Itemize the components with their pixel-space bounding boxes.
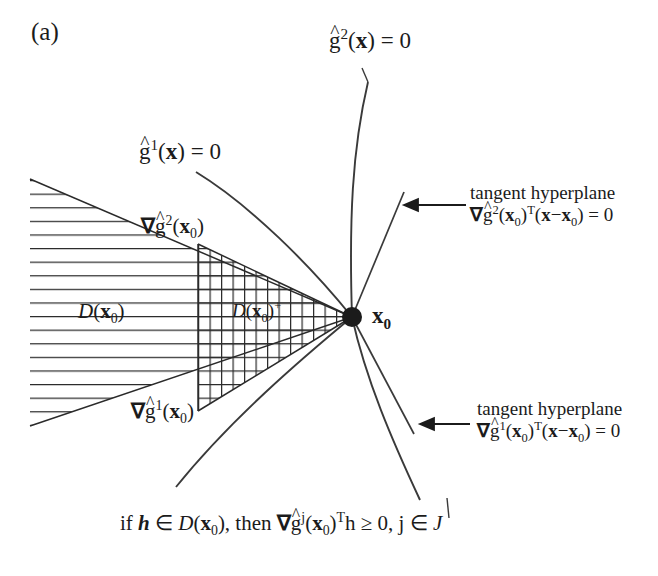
label-region-D: D(x0) xyxy=(78,300,125,324)
annotation-upper-line2: ∇^g2(x0)T(x−x0) = 0 xyxy=(470,204,615,225)
figure-panel-a: (a) ^g2(x) = 0 ^g1(x) = 0 ∇^g2(x0) ∇^g1(… xyxy=(0,0,658,576)
label-curve-g2-hat-zero: ^g2(x) = 0 xyxy=(329,28,411,54)
line-tangent-hyperplane-2 xyxy=(352,192,404,317)
label-gradient-g1: ∇^g1(x0) xyxy=(131,400,194,424)
annotation-tangent-hyperplane-lower: tangent hyperplane ∇^g1(x0)T(x−x0) = 0 xyxy=(477,398,622,442)
label-point-x0: x0 xyxy=(372,303,391,329)
arrow-to-tangent-2 xyxy=(404,199,466,211)
annotation-lower-line2: ∇^g1(x0)T(x−x0) = 0 xyxy=(477,420,622,441)
tick-g2-label-leader xyxy=(362,68,368,82)
figure-caption: if h ∈ D(x0), then ∇^gj(x0)Th ≥ 0, j ∈ J xyxy=(120,512,442,536)
label-gradient-g2: ∇^g2(x0) xyxy=(141,215,204,239)
arrow-to-tangent-1 xyxy=(420,418,470,430)
curve-g2-hat-zero xyxy=(351,82,368,317)
curve-g2-hat-zero-lower xyxy=(352,317,420,500)
region-D-x0-polar xyxy=(180,230,380,430)
panel-tag: (a) xyxy=(31,18,59,46)
diagram-canvas xyxy=(0,0,658,576)
label-curve-g1-hat-zero: ^g1(x) = 0 xyxy=(139,139,221,165)
point-x0-marker xyxy=(342,307,362,327)
annotation-tangent-hyperplane-upper: tangent hyperplane ∇^g2(x0)T(x−x0) = 0 xyxy=(470,182,615,226)
label-region-D-polar: D(x0)+ xyxy=(232,300,281,321)
tick-caption-leader xyxy=(447,498,449,518)
